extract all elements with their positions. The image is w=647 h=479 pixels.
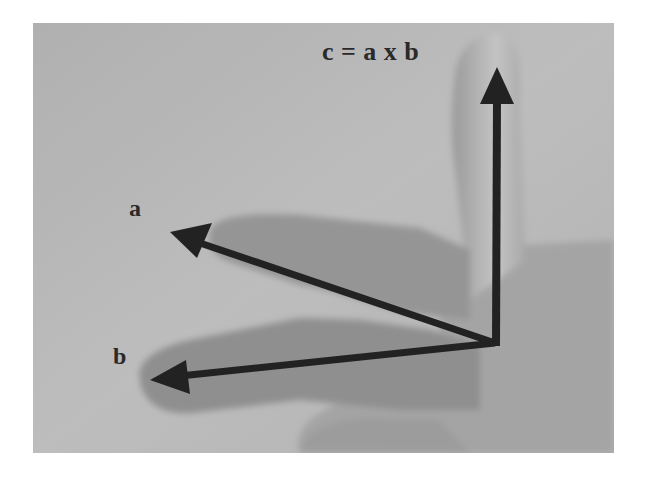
right-hand-rule-photo: c = a x b a b (33, 23, 614, 453)
vector-a-label: a (129, 196, 141, 220)
vector-c-arrow (496, 100, 497, 346)
vector-b-label: b (113, 344, 126, 368)
vector-c-label: c = a x b (322, 39, 419, 65)
hand-illustration (33, 23, 614, 453)
